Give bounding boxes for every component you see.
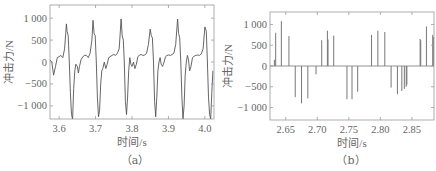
plot-area — [270, 21, 434, 103]
y-tick-label: −1 000 — [237, 102, 267, 113]
x-axis-label: 时间/s — [337, 137, 366, 149]
y-tick-label: 0 — [42, 57, 47, 68]
x-tick-label: 4.0 — [198, 123, 211, 134]
x-tick-label: 2.85 — [403, 124, 421, 135]
chart-a-plot: 1 0005000−500−1 0003.63.73.83.94.0时间/s冲击… — [0, 0, 218, 150]
x-tick-label: 3.9 — [162, 123, 175, 134]
chart-a-caption: （a） — [105, 151, 165, 167]
y-tick-label: −500 — [245, 81, 267, 92]
y-tick-label: 500 — [251, 40, 267, 51]
y-tick-label: 500 — [31, 35, 47, 46]
x-tick-label: 2.65 — [277, 124, 295, 135]
chart-b-caption: （b） — [321, 151, 381, 167]
x-axis: 2.652.702.752.802.85 — [277, 12, 422, 135]
x-tick-label: 2.80 — [371, 124, 389, 135]
x-tick-label: 2.70 — [308, 124, 326, 135]
y-tick-label: 0 — [262, 61, 267, 72]
y-axis-label: 冲击力/N — [2, 40, 15, 84]
x-axis-label: 时间/s — [117, 136, 146, 148]
axes-frame — [50, 5, 214, 119]
y-tick-label: −1 000 — [17, 100, 47, 111]
data-line — [50, 19, 213, 119]
chart-b-plot: 1 0005000−500−1 0002.652.702.752.802.85时… — [218, 0, 436, 150]
y-axis-label: 冲击力/N — [221, 44, 234, 88]
chart-a: 1 0005000−500−1 0003.63.73.83.94.0时间/s冲击… — [0, 0, 218, 171]
y-tick-label: 1 000 — [243, 19, 267, 30]
x-tick-label: 2.75 — [340, 124, 358, 135]
y-tick-label: −500 — [25, 78, 47, 89]
y-tick-label: 1 000 — [23, 13, 47, 24]
x-tick-label: 3.6 — [53, 123, 66, 134]
plot-area — [50, 19, 213, 119]
x-axis: 3.63.73.83.94.0 — [53, 5, 212, 134]
x-tick-label: 3.7 — [89, 123, 102, 134]
x-tick-label: 3.8 — [125, 123, 138, 134]
chart-b: 1 0005000−500−1 0002.652.702.752.802.85时… — [218, 0, 436, 171]
